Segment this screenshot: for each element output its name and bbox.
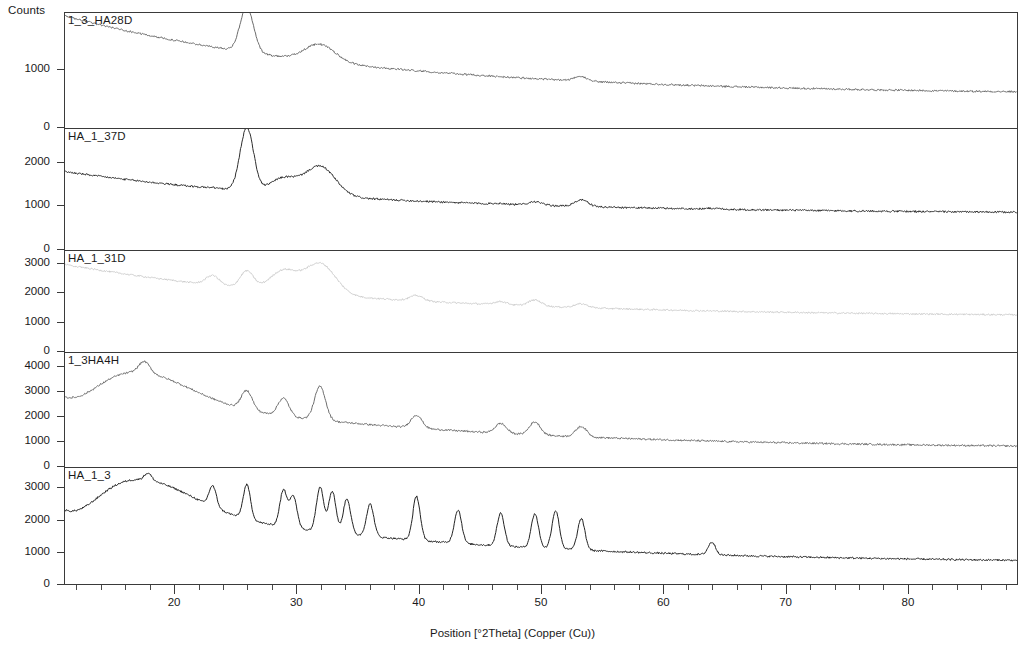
- y-tick-label: 1000: [2, 198, 50, 210]
- series-label: 1_3_HA28D: [68, 14, 132, 26]
- x-tick-minor: [1006, 585, 1007, 590]
- x-tick-minor: [614, 585, 615, 590]
- x-axis-tick-group: [64, 585, 1018, 594]
- series-label: HA_1_37D: [68, 130, 126, 142]
- diffraction-trace: [65, 251, 1017, 352]
- diffraction-trace: [65, 129, 1017, 250]
- y-tick-mark: [57, 366, 64, 367]
- y-tick-label: 2000: [2, 285, 50, 297]
- y-tick-label: 4000: [2, 359, 50, 371]
- x-tick-major: [908, 585, 909, 594]
- y-tick-label: 3000: [2, 384, 50, 396]
- y-tick-mark: [57, 552, 64, 553]
- x-tick-minor: [370, 585, 371, 590]
- x-tick-minor: [565, 585, 566, 590]
- x-tick-label: 70: [766, 596, 806, 608]
- y-tick-mark: [57, 584, 64, 585]
- y-tick-mark: [57, 351, 64, 352]
- diffraction-trace: [65, 13, 1017, 128]
- x-tick-minor: [345, 585, 346, 590]
- x-tick-minor: [247, 585, 248, 590]
- panel-ha-1-31d: HA_1_31D: [64, 250, 1018, 352]
- x-tick-minor: [835, 585, 836, 590]
- y-tick-label: 1000: [2, 434, 50, 446]
- x-tick-minor: [223, 585, 224, 590]
- y-tick-mark: [57, 441, 64, 442]
- x-tick-minor: [125, 585, 126, 590]
- series-label: HA_1_3: [68, 469, 111, 481]
- y-tick-label: 3000: [2, 480, 50, 492]
- x-tick-minor: [932, 585, 933, 590]
- y-tick-mark: [57, 466, 64, 467]
- x-tick-minor: [517, 585, 518, 590]
- series-label: HA_1_31D: [68, 252, 126, 264]
- y-tick-label: 0: [2, 120, 50, 132]
- x-tick-minor: [859, 585, 860, 590]
- x-tick-minor: [492, 585, 493, 590]
- x-tick-minor: [101, 585, 102, 590]
- x-tick-minor: [688, 585, 689, 590]
- y-tick-mark: [57, 322, 64, 323]
- y-tick-label: 0: [2, 242, 50, 254]
- y-tick-label: 1000: [2, 315, 50, 327]
- x-tick-minor: [394, 585, 395, 590]
- y-axis-title: Counts: [8, 4, 45, 16]
- x-tick-major: [296, 585, 297, 594]
- y-tick-mark: [57, 249, 64, 250]
- panel-ha-1-3: HA_1_3: [64, 467, 1018, 585]
- x-tick-minor: [468, 585, 469, 590]
- x-tick-label: 30: [276, 596, 316, 608]
- x-tick-minor: [761, 585, 762, 590]
- x-tick-label: 50: [521, 596, 561, 608]
- x-tick-minor: [590, 585, 591, 590]
- panel-1-3-ha28d: 1_3_HA28D: [64, 12, 1018, 128]
- panel-1-3ha4h: 1_3HA4H: [64, 352, 1018, 467]
- x-axis-title: Position [°2Theta] (Copper (Cu)): [0, 627, 1025, 639]
- x-tick-minor: [810, 585, 811, 590]
- x-tick-minor: [199, 585, 200, 590]
- x-tick-major: [786, 585, 787, 594]
- y-tick-label: 2000: [2, 155, 50, 167]
- x-tick-minor: [321, 585, 322, 590]
- x-tick-major: [541, 585, 542, 594]
- x-tick-label: 80: [888, 596, 928, 608]
- y-tick-label: 3000: [2, 256, 50, 268]
- y-tick-label: 0: [2, 344, 50, 356]
- x-tick-label: 60: [643, 596, 683, 608]
- x-tick-label: 20: [154, 596, 194, 608]
- y-tick-label: 2000: [2, 513, 50, 525]
- plot-area: 1_3_HA28DHA_1_37DHA_1_31D1_3HA4HHA_1_3: [64, 12, 1018, 585]
- y-tick-mark: [57, 416, 64, 417]
- x-tick-minor: [150, 585, 151, 590]
- x-tick-major: [419, 585, 420, 594]
- x-tick-minor: [957, 585, 958, 590]
- x-tick-minor: [272, 585, 273, 590]
- diffraction-trace: [65, 353, 1017, 467]
- x-tick-major: [663, 585, 664, 594]
- x-tick-major: [174, 585, 175, 594]
- y-tick-mark: [57, 205, 64, 206]
- y-tick-mark: [57, 263, 64, 264]
- y-tick-mark: [57, 292, 64, 293]
- y-tick-label: 0: [2, 459, 50, 471]
- y-tick-mark: [57, 127, 64, 128]
- x-tick-minor: [737, 585, 738, 590]
- x-tick-label: 40: [399, 596, 439, 608]
- x-tick-minor: [76, 585, 77, 590]
- y-tick-mark: [57, 162, 64, 163]
- y-tick-mark: [57, 69, 64, 70]
- x-tick-minor: [883, 585, 884, 590]
- series-label: 1_3HA4H: [68, 354, 119, 366]
- x-tick-minor: [712, 585, 713, 590]
- diffraction-trace: [65, 468, 1017, 584]
- y-tick-label: 2000: [2, 409, 50, 421]
- y-tick-mark: [57, 487, 64, 488]
- xrd-chart-root: Counts 1_3_HA28DHA_1_37DHA_1_31D1_3HA4HH…: [0, 0, 1025, 649]
- y-tick-mark: [57, 391, 64, 392]
- y-tick-label: 1000: [2, 62, 50, 74]
- panel-ha-1-37d: HA_1_37D: [64, 128, 1018, 250]
- y-tick-label: 1000: [2, 545, 50, 557]
- x-tick-minor: [639, 585, 640, 590]
- x-tick-minor: [443, 585, 444, 590]
- x-tick-minor: [981, 585, 982, 590]
